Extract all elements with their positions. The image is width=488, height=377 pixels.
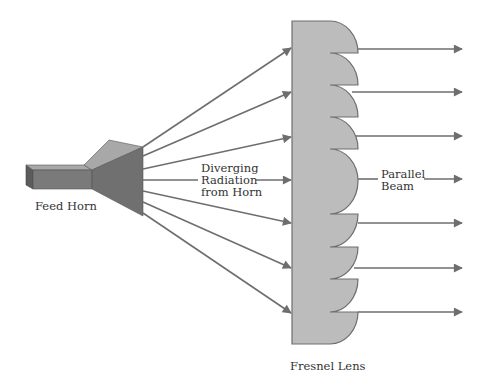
diverging-ray [143, 48, 291, 147]
feed-horn-label: Feed Horn [35, 199, 97, 213]
parallel-beam-label-line2: Beam [381, 179, 414, 193]
diverging-radiation-label-line3: from Horn [201, 185, 263, 199]
waveguide-top-face [26, 165, 92, 170]
fresnel-lens [292, 21, 358, 344]
fresnel-lens-diagram: Feed Horn Diverging Radiation from Horn … [0, 0, 488, 377]
waveguide-front-face [33, 170, 92, 189]
diverging-ray [143, 202, 291, 268]
diverging-ray [143, 213, 291, 313]
fresnel-lens-label: Fresnel Lens [290, 359, 366, 373]
diverging-ray [143, 92, 291, 156]
